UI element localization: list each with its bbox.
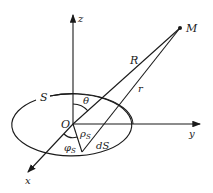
point-m-label: M xyxy=(185,22,198,35)
ds-label: dS xyxy=(96,140,109,151)
r-element-label: r xyxy=(138,83,144,94)
x-label: x xyxy=(25,175,31,186)
surface-label: S xyxy=(40,91,48,104)
diagram-canvas: z y x O S M R r θ ρS φS dS xyxy=(0,0,213,193)
origin-label: O xyxy=(61,118,70,131)
r-origin-label: R xyxy=(129,54,138,67)
rho-label: ρS xyxy=(79,128,91,141)
phi-arc xyxy=(64,134,77,138)
phi-label: φS xyxy=(64,142,76,155)
z-label: z xyxy=(77,13,84,24)
r-origin-line xyxy=(73,28,180,124)
point-m-dot xyxy=(178,26,182,30)
y-label: y xyxy=(188,128,195,139)
r-element-line xyxy=(82,28,180,152)
theta-label: θ xyxy=(83,95,89,106)
